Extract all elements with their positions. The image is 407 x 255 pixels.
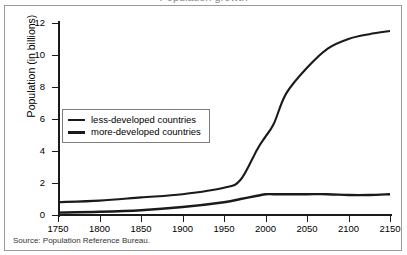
x-tick-label: 2000: [246, 224, 286, 234]
source-note: Source: Population Reference Bureau.: [13, 236, 150, 245]
figure-title-text: Population growth: [0, 0, 407, 3]
legend-label: more-developed countries: [91, 127, 201, 137]
x-tick-label: 2150: [370, 224, 407, 234]
x-tick: [224, 216, 225, 222]
y-tick-label: 4: [19, 146, 45, 156]
y-tick-label: 8: [19, 82, 45, 92]
legend-label: less-developed countries: [91, 115, 196, 125]
x-tick: [307, 216, 308, 222]
y-tick-label: 10: [19, 50, 45, 60]
legend-swatch-icon: [68, 131, 85, 134]
x-tick-label: 2100: [329, 224, 369, 234]
x-tick: [100, 216, 101, 222]
x-tick: [183, 216, 184, 222]
line-more-developed: [58, 194, 390, 213]
legend-item-more-developed: more-developed countries: [68, 126, 201, 138]
legend-swatch-icon: [68, 119, 85, 121]
y-tick-label: 0: [19, 210, 45, 220]
x-tick-label: 1950: [204, 224, 244, 234]
y-tick-label: 6: [19, 114, 45, 124]
x-tick: [349, 216, 350, 222]
legend-item-less-developed: less-developed countries: [68, 114, 201, 126]
chart-legend: less-developed countries more-developed …: [62, 109, 210, 143]
y-tick-label: 12: [19, 18, 45, 28]
x-tick: [141, 216, 142, 222]
x-tick-label: 1750: [38, 224, 78, 234]
y-tick-label: 2: [19, 178, 45, 188]
x-tick: [390, 216, 391, 222]
x-tick-label: 1800: [80, 224, 120, 234]
x-tick-label: 1900: [163, 224, 203, 234]
x-tick-label: 2050: [287, 224, 327, 234]
x-tick-label: 1850: [121, 224, 161, 234]
figure-frame: Population (in billions) 024681012 17501…: [4, 5, 402, 251]
x-tick: [266, 216, 267, 222]
x-tick: [58, 216, 59, 222]
